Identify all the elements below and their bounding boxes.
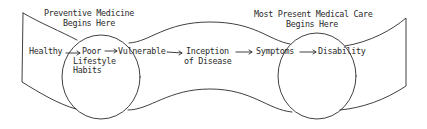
stage-poor-lifestyle-habits: Poor Lifestyle Habits (73, 47, 116, 76)
disease-progression-diagram: Preventive Medicine Begins Here Most Pre… (0, 0, 427, 129)
stage-disability: Disability (318, 47, 365, 57)
preventive-heading-line2: Begins Here (44, 19, 134, 29)
stage-symptoms: Symptoms (256, 47, 294, 57)
medical-heading-line2: Begins Here (254, 20, 370, 30)
preventive-heading: Preventive Medicine Begins Here (44, 9, 134, 28)
stage-inception-of-disease: Inception of Disease (184, 47, 231, 66)
stage-vulnerable: Vulnerable (118, 47, 165, 57)
medical-care-heading: Most Present Medical Care Begins Here (254, 10, 370, 29)
middle-band-bottom (128, 89, 292, 112)
right-band-outline (340, 18, 406, 110)
stage-healthy: Healthy (29, 47, 62, 57)
